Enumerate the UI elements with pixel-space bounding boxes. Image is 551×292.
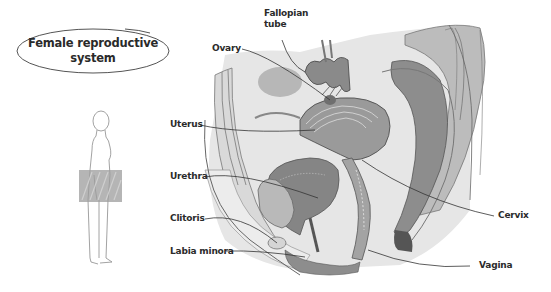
pelvic-region-highlight [79,170,122,202]
diagram-title: Female reproductive system [18,36,168,66]
label-urethra: Urethra [170,171,208,182]
title-line-2: system [18,51,168,66]
label-uterus: Uterus [170,119,203,130]
label-labia-minora: Labia minora [170,246,234,257]
title-line-1: Female reproductive [18,36,168,51]
title-oval-flourish [125,29,150,33]
label-fallopian-tube-line-2: tube [264,19,308,30]
label-fallopian-tube-line-1: Fallopian [264,8,308,19]
label-fallopian-tube: Fallopian tube [264,8,308,30]
label-ovary: Ovary [212,43,241,54]
label-clitoris: Clitoris [170,213,205,224]
label-vagina: Vagina [479,260,512,271]
pelvic-cross-section [205,25,485,275]
label-cervix: Cervix [498,210,529,221]
